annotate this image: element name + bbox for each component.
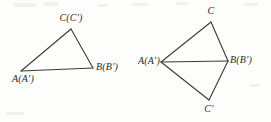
label-left-b: B(B′) <box>96 62 118 72</box>
label-right-a: A(A′) <box>138 56 160 66</box>
left-triangle <box>21 29 93 71</box>
edge-b-cprime <box>209 61 228 100</box>
edge-ca <box>21 29 71 71</box>
edge-cb <box>211 22 228 61</box>
label-right-c: C <box>208 6 215 16</box>
label-right-c-prime: C′ <box>204 104 213 114</box>
edge-cprime-a <box>161 62 209 100</box>
label-left-a: A(A′) <box>12 74 34 84</box>
label-right-b: B(B′) <box>230 55 252 65</box>
label-left-c: C(C′) <box>59 13 82 23</box>
edge-ab <box>21 68 93 71</box>
edge-ab <box>161 61 228 62</box>
geometry-figure: C(C′) A(A′) B(B′) C A(A′) B(B′) C′ <box>0 0 271 122</box>
right-kite <box>161 22 228 100</box>
edge-ac <box>161 22 211 62</box>
edge-bc <box>71 29 93 68</box>
